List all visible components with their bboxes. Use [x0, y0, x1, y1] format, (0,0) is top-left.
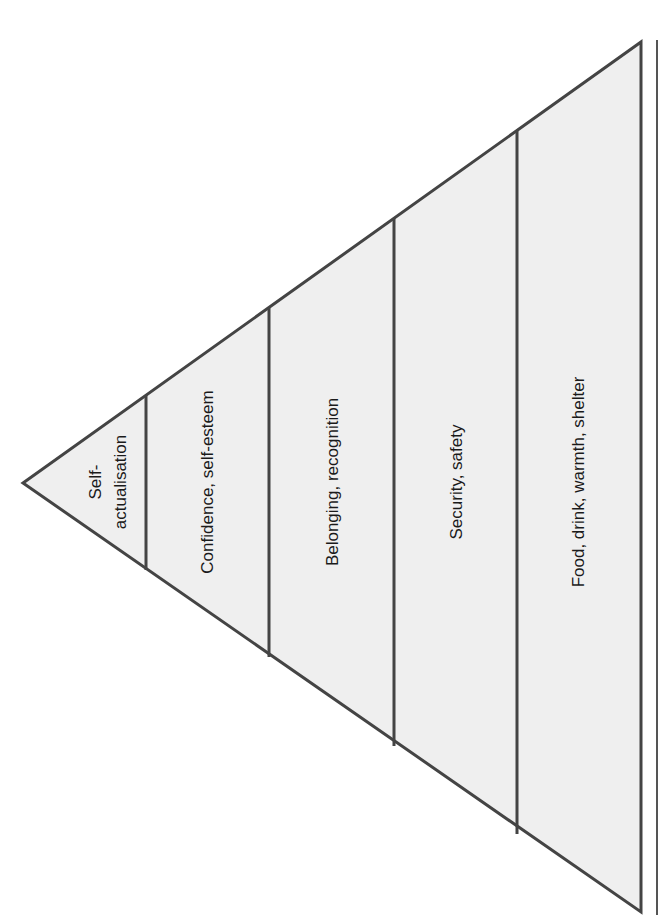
pyramid-diagram: Self- actualisation Confidence, self-est…: [0, 0, 663, 915]
level-1-label-line1: Self-: [86, 465, 105, 500]
level-2-label: Confidence, self-esteem: [198, 390, 217, 573]
level-3-label: Belonging, recognition: [323, 398, 342, 566]
level-4-label: Security, safety: [447, 424, 466, 539]
level-5-label: Food, drink, warmth, shelter: [569, 376, 588, 587]
level-1-label-line2: actualisation: [111, 435, 130, 530]
